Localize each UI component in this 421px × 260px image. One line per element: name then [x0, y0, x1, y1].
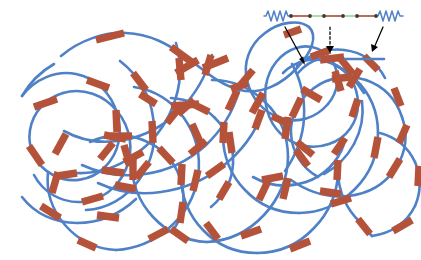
inset-right-spring-icon: [376, 11, 403, 21]
inset-node: [289, 14, 293, 18]
inset-repeat-unit: [264, 11, 403, 21]
inset-node: [341, 14, 345, 18]
arrow-right-head: [371, 44, 378, 52]
inset-node: [355, 14, 359, 18]
inset-node: [322, 14, 326, 18]
inset-node: [308, 14, 312, 18]
network-canvas: [0, 0, 421, 260]
inset-left-spring-icon: [264, 11, 290, 21]
inset-node: [374, 14, 378, 18]
arrow-right: [374, 27, 383, 48]
polymer-network-figure: Rod-coil polymer network schematic Entan…: [0, 0, 421, 260]
